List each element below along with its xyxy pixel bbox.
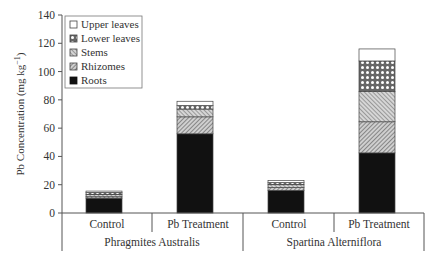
y-tick-label: 60 [44,122,56,134]
bar-stack [177,101,213,213]
bar-stack [359,49,395,213]
bar-segment-stems [177,109,213,117]
y-tick-label: 80 [44,94,56,106]
bar-segment-upper-leaves [359,49,395,61]
roots-swatch-icon [70,77,77,84]
bar-segment-rhizomes [177,117,213,134]
bar-stack [86,191,122,213]
bar-segment-lower-leaves [177,106,213,110]
svg-text:Stems: Stems [81,46,108,58]
stacked-bar-chart: 020406080100120140 Pb Concentration (mg … [0,0,444,266]
svg-text:Roots: Roots [81,74,107,86]
bar-segment-roots [268,190,304,213]
bar-segment-upper-leaves [268,180,304,182]
svg-text:Lower leaves: Lower leaves [81,32,140,44]
x-group-label: Phragmites Australis [104,236,200,249]
bar-segment-upper-leaves [86,191,122,192]
y-tick-label: 120 [38,37,56,49]
x-category-label: Pb Treatment [167,218,229,230]
y-tick-label: 0 [49,207,55,219]
y-tick-label: 40 [44,150,56,162]
x-category-label: Pb Treatment [348,218,410,230]
rhizomes-swatch-icon [70,63,77,70]
y-tick-label: 140 [38,9,56,21]
legend-item-upper-leaves: Upper leaves [70,18,139,30]
bar-segment-roots [86,198,122,213]
bar-segment-stems [359,91,395,121]
bar-segment-upper-leaves [177,101,213,105]
bar-segment-lower-leaves [359,61,395,91]
bar-stack [268,180,304,213]
y-axis-title: Pb Concentration (mg kg−1) [13,52,27,175]
y-tick-label: 20 [44,179,56,191]
upper-leaves-swatch-icon [70,21,77,28]
bar-segment-roots [177,134,213,213]
y-tick-label: 100 [38,66,56,78]
bar-segment-rhizomes [268,188,304,191]
lower-leaves-swatch-icon [70,35,77,42]
x-category-label: Control [89,218,124,230]
stems-swatch-icon [70,49,77,56]
legend: Upper leaves Lower leaves Stems Rhizomes… [65,16,142,88]
x-group-label: Spartina Alterniflora [287,236,382,249]
svg-text:Upper leaves: Upper leaves [81,18,139,30]
x-category-label: Control [271,218,306,230]
bar-segment-rhizomes [359,122,395,153]
bar-segment-roots [359,153,395,213]
x-axis: Control Pb Treatment Control Pb Treatmen… [62,213,424,251]
y-axis: 020406080100120140 [38,9,62,219]
bar-segment-stems [268,185,304,188]
svg-text:Rhizomes: Rhizomes [81,60,125,72]
legend-item-lower-leaves: Lower leaves [70,32,140,44]
